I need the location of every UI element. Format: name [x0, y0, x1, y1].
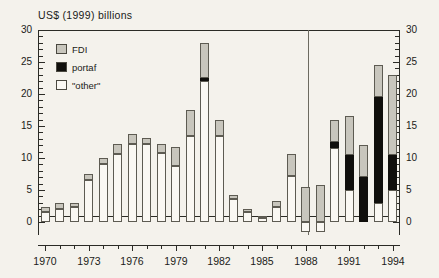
y-axis-right: [399, 30, 400, 235]
x-axis-label: 1982: [207, 255, 230, 267]
bar-segment-other: [243, 212, 252, 222]
chart-screenshot: US$ (1999) billions 19701973197619791982…: [0, 0, 439, 278]
legend-swatch-portaf-icon: [56, 62, 67, 72]
bar-stack: [330, 30, 339, 235]
x-axis-label: 1973: [77, 255, 100, 267]
x-axis-tick: [74, 245, 75, 249]
y-axis-label: 15: [406, 120, 428, 131]
bar-stack: [215, 30, 224, 235]
page-title: US$ (1999) billions: [38, 9, 132, 21]
x-axis-tick: [103, 245, 104, 249]
bar-stack: [200, 30, 209, 235]
bar-stack: [171, 30, 180, 235]
bar-stack: [316, 30, 325, 235]
y-axis-label: 20: [406, 88, 428, 99]
bar-stack: [243, 30, 252, 235]
legend-label-portaf: portaf: [72, 62, 96, 73]
bar-segment-fdi: [330, 120, 339, 142]
bar-stack: [345, 30, 354, 235]
bar-segment-portaf: [330, 142, 339, 148]
x-axis-tick: [320, 245, 321, 249]
x-axis-label: 1991: [337, 255, 360, 267]
x-axis-tick: [147, 245, 148, 249]
y-axis-label: 10: [10, 152, 32, 163]
x-axis-tick: [248, 245, 249, 249]
bar-segment-portaf: [388, 155, 397, 190]
bar-segment-fdi: [200, 43, 209, 78]
x-axis-label: 1988: [294, 255, 317, 267]
bar-stack: [287, 30, 296, 235]
bar-stack: [272, 30, 281, 235]
bar-segment-fdi: [316, 185, 325, 222]
bar-segment-fdi: [84, 174, 93, 180]
bar-segment-other: [99, 164, 108, 222]
x-axis-tick: [364, 245, 365, 249]
bar-segment-fdi: [142, 138, 151, 144]
legend: FDI portaf "other": [56, 41, 100, 95]
x-axis-tick: [233, 245, 234, 249]
x-axis-tick: [306, 245, 307, 251]
bar-stack: [258, 30, 267, 235]
bar-segment-fdi: [388, 75, 397, 155]
list-item: "other": [56, 77, 100, 93]
x-axis-tick: [219, 245, 220, 251]
bar-stack: [186, 30, 195, 235]
bar-segment-other: [229, 199, 238, 222]
x-axis-tick: [45, 245, 46, 251]
bar-segment-other: [200, 81, 209, 222]
bar-segment-other: [388, 190, 397, 222]
x-axis-tick: [176, 245, 177, 251]
x-axis-tick: [291, 245, 292, 249]
list-item: FDI: [56, 41, 100, 57]
bar-segment-fdi: [55, 203, 64, 209]
y-axis-label: 20: [10, 88, 32, 99]
bar-segment-fdi: [345, 116, 354, 154]
bar-segment-portaf: [345, 155, 354, 190]
bar-stack: [301, 30, 310, 235]
x-axis-tick: [335, 245, 336, 249]
bar-segment-fdi: [186, 110, 195, 136]
y-axis-label: 5: [406, 184, 428, 195]
bar-segment-other: [55, 209, 64, 222]
legend-swatch-fdi-icon: [56, 44, 67, 54]
bar-segment-fdi: [287, 154, 296, 176]
bar-segment-other: [374, 203, 383, 222]
bar-segment-fdi: [215, 120, 224, 137]
bar-segment-fdi: [113, 144, 122, 154]
x-axis-label: 1994: [381, 255, 404, 267]
x-axis-label: 1979: [164, 255, 187, 267]
bar-stack: [113, 30, 122, 235]
bar-segment-portaf: [374, 97, 383, 203]
bar-segment-other: [215, 136, 224, 222]
bar-stack: [229, 30, 238, 235]
y-axis-label: 5: [10, 184, 32, 195]
bar-segment-other: [128, 144, 137, 222]
bar-segment-fdi: [301, 187, 310, 222]
x-axis-tick: [161, 245, 162, 249]
bar-stack: [374, 30, 383, 235]
x-axis-tick: [118, 245, 119, 249]
list-item: portaf: [56, 59, 100, 75]
bar-segment-fdi: [359, 145, 368, 177]
bar-segment-fdi: [41, 207, 50, 212]
y-axis-label: 25: [10, 56, 32, 67]
y-axis-label: 30: [10, 24, 32, 35]
legend-label-other: "other": [72, 80, 100, 91]
x-axis-tick: [132, 245, 133, 251]
bar-segment-fdi: [258, 216, 267, 218]
bar-stack: [128, 30, 137, 235]
legend-label-fdi: FDI: [72, 44, 87, 55]
x-axis-label: 1970: [33, 255, 56, 267]
bar-segment-other: [142, 144, 151, 222]
bar-stack: [41, 30, 50, 235]
x-axis-tick: [262, 245, 263, 251]
bar-segment-fdi: [229, 195, 238, 200]
x-axis-tick: [349, 245, 350, 251]
bar-segment-other: [157, 153, 166, 222]
bar-segment-other: [186, 136, 195, 222]
x-axis-tick: [190, 245, 191, 249]
x-axis-tick: [393, 245, 394, 251]
bar-segment-other: [70, 207, 79, 222]
bar-segment-other: [345, 190, 354, 222]
x-axis-tick: [205, 245, 206, 249]
